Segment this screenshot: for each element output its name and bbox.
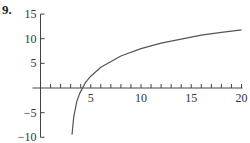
- log-curve-chart: −10−5510155101520: [0, 0, 250, 143]
- x-tick-label: 15: [185, 91, 197, 105]
- curve-line: [72, 30, 242, 135]
- y-tick-label: −10: [18, 130, 37, 143]
- x-tick-label: 20: [236, 91, 248, 105]
- y-tick-label: 15: [25, 7, 37, 21]
- y-tick-label: 10: [25, 32, 37, 46]
- x-tick-label: 5: [88, 91, 94, 105]
- y-tick-label: −5: [24, 106, 37, 120]
- y-tick-label: 5: [31, 56, 37, 70]
- x-tick-label: 10: [135, 91, 147, 105]
